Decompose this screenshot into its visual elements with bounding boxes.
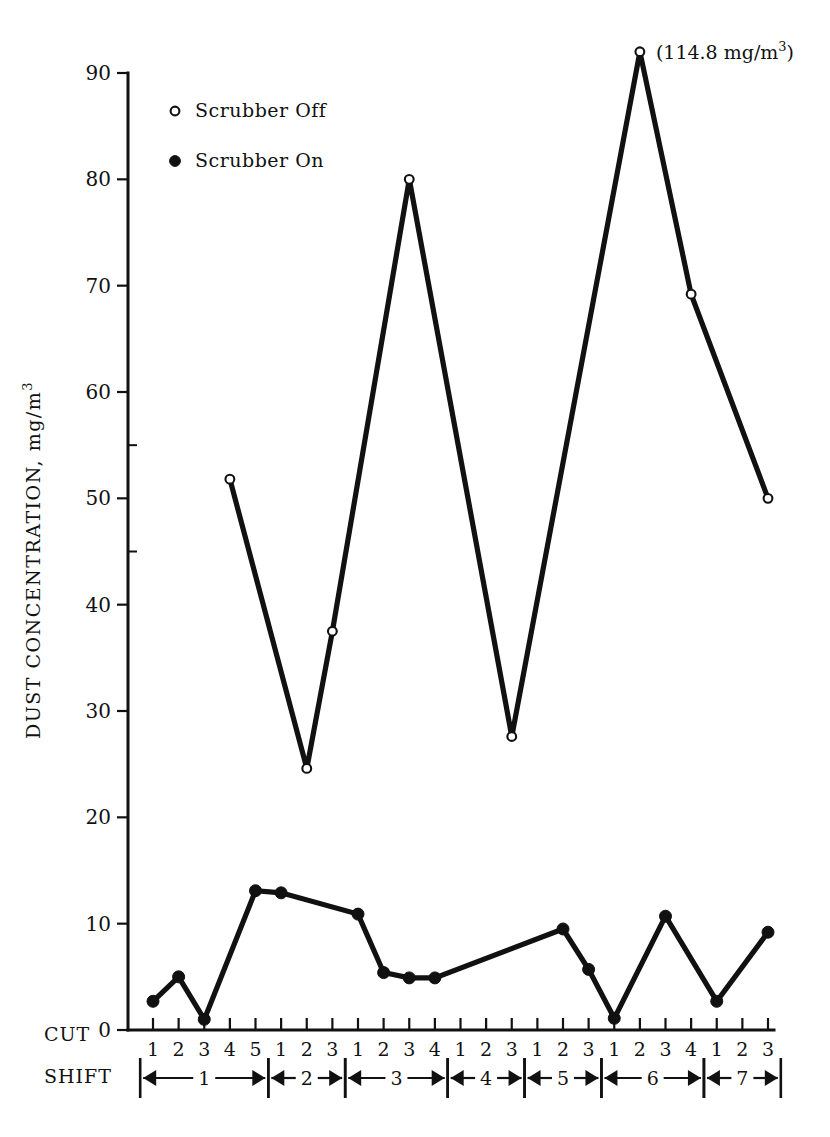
x-axis-cut-label: 1 <box>711 1038 723 1060</box>
x-axis: 1234512312341231231234123 <box>128 1018 774 1060</box>
y-axis-tick-label: 90 <box>86 61 111 85</box>
data-point-scrubber-on[interactable] <box>378 967 390 979</box>
svg-text:DUST CONCENTRATION, mg/m3: DUST CONCENTRATION, mg/m3 <box>20 381 44 739</box>
x-axis-cut-label: 2 <box>557 1038 569 1060</box>
annotation-text-after: ) <box>787 41 794 63</box>
y-axis-tick-label: 60 <box>86 380 111 404</box>
row-label-shift: SHIFT <box>44 1065 112 1087</box>
data-point-scrubber-on[interactable] <box>275 887 287 899</box>
x-axis-cut-label: 5 <box>249 1038 261 1060</box>
x-axis-cut-label: 2 <box>480 1038 492 1060</box>
data-point-scrubber-on[interactable] <box>711 995 723 1007</box>
shift-group-5: 5 <box>525 1058 602 1098</box>
data-point-scrubber-on[interactable] <box>608 1012 620 1024</box>
chart-canvas: DUST CONCENTRATION, mg/m3 01020304050607… <box>0 0 830 1137</box>
legend-label: Scrubber On <box>195 149 324 171</box>
shift-number-label: 7 <box>736 1067 748 1089</box>
data-point-scrubber-on[interactable] <box>660 910 672 922</box>
y-axis-tick-label: 0 <box>98 1018 111 1042</box>
x-axis-cut-label: 2 <box>378 1038 390 1060</box>
shift-number-label: 5 <box>557 1067 569 1089</box>
legend-item-scrubber-off[interactable]: Scrubber Off <box>171 99 328 121</box>
shift-group-3: 3 <box>345 1058 448 1098</box>
offscale-annotation: (114.8 mg/m3) <box>656 39 794 63</box>
x-axis-cut-label: 3 <box>583 1038 595 1060</box>
chart-legend: Scrubber OffScrubber On <box>170 99 328 171</box>
legend-item-scrubber-on[interactable]: Scrubber On <box>170 149 324 171</box>
shift-group-1: 1 <box>140 1058 268 1098</box>
x-axis-cut-label: 3 <box>506 1038 518 1060</box>
x-axis-cut-label: 2 <box>736 1038 748 1060</box>
x-axis-cut-label: 3 <box>326 1038 338 1060</box>
x-axis-cut-label: 3 <box>403 1038 415 1060</box>
row-label-cut: CUT <box>44 1023 90 1045</box>
data-point-scrubber-on[interactable] <box>198 1013 210 1025</box>
data-point-scrubber-off[interactable] <box>225 475 234 484</box>
x-axis-cut-label: 3 <box>198 1038 210 1060</box>
x-axis-cut-label: 3 <box>762 1038 774 1060</box>
x-axis-cut-label: 2 <box>634 1038 646 1060</box>
data-point-scrubber-on[interactable] <box>583 963 595 975</box>
y-axis-tick-label: 40 <box>86 593 111 617</box>
shift-number-label: 3 <box>390 1067 402 1089</box>
x-axis-cut-label: 1 <box>275 1038 287 1060</box>
y-axis-tick-label: 70 <box>86 274 111 298</box>
y-axis-title: DUST CONCENTRATION, mg/m3 <box>20 381 44 739</box>
data-point-scrubber-off[interactable] <box>687 290 696 299</box>
data-point-scrubber-off[interactable] <box>635 47 644 56</box>
y-axis-title-text: DUST CONCENTRATION, mg/m <box>22 391 44 739</box>
x-axis-cut-label: 1 <box>352 1038 364 1060</box>
y-axis-tick-label: 50 <box>86 486 111 510</box>
data-point-scrubber-on[interactable] <box>352 908 364 920</box>
data-point-scrubber-on[interactable] <box>173 971 185 983</box>
annotation-superscript: 3 <box>778 39 786 54</box>
y-axis-title-superscript: 3 <box>20 381 35 391</box>
series-scrubber-on <box>147 885 774 1026</box>
data-point-scrubber-off[interactable] <box>405 175 414 184</box>
data-point-scrubber-on[interactable] <box>557 923 569 935</box>
y-axis-tick-label: 80 <box>86 167 111 191</box>
x-axis-cut-label: 1 <box>147 1038 159 1060</box>
y-axis-tick-label: 20 <box>86 805 111 829</box>
shift-number-label: 1 <box>198 1067 210 1089</box>
shift-group-row: 1234567 <box>140 1058 781 1098</box>
data-point-scrubber-on[interactable] <box>403 972 415 984</box>
y-axis-tick-label: 30 <box>86 699 111 723</box>
x-axis-cut-label: 1 <box>531 1038 543 1060</box>
x-axis-cut-label: 4 <box>429 1038 441 1060</box>
shift-number-label: 6 <box>647 1067 659 1089</box>
y-axis: 0102030405060708090 <box>86 61 137 1042</box>
x-axis-cut-label: 1 <box>608 1038 620 1060</box>
data-point-scrubber-on[interactable] <box>429 972 441 984</box>
data-point-scrubber-off[interactable] <box>328 627 337 636</box>
annotation-text: (114.8 mg/m <box>656 41 778 63</box>
data-point-scrubber-off[interactable] <box>507 732 516 741</box>
legend-label: Scrubber Off <box>195 99 328 121</box>
dust-concentration-figure: DUST CONCENTRATION, mg/m3 01020304050607… <box>0 0 830 1137</box>
x-axis-cut-label: 2 <box>173 1038 185 1060</box>
shift-group-6: 6 <box>601 1058 704 1098</box>
shift-number-label: 4 <box>480 1067 492 1089</box>
data-point-scrubber-off[interactable] <box>764 494 773 503</box>
series-polyline <box>153 891 768 1020</box>
y-axis-tick-label: 10 <box>86 912 111 936</box>
legend-marker-filled-circle-icon <box>170 156 181 167</box>
x-axis-cut-label: 4 <box>685 1038 697 1060</box>
annotation-offscale-value: (114.8 mg/m3) <box>656 39 794 63</box>
shift-group-4: 4 <box>448 1058 525 1098</box>
shift-group-7: 7 <box>704 1058 781 1098</box>
x-axis-cut-label: 2 <box>301 1038 313 1060</box>
plot-root: 0102030405060708090123451231234123123123… <box>86 47 775 1060</box>
shift-group-2: 2 <box>268 1058 345 1098</box>
legend-marker-open-circle-icon <box>171 107 180 116</box>
data-point-scrubber-off[interactable] <box>302 764 311 773</box>
data-point-scrubber-on[interactable] <box>762 926 774 938</box>
x-axis-cut-label: 3 <box>659 1038 671 1060</box>
x-axis-cut-label: 4 <box>224 1038 236 1060</box>
data-point-scrubber-on[interactable] <box>250 885 262 897</box>
x-axis-cut-label: 1 <box>454 1038 466 1060</box>
shift-number-label: 2 <box>301 1067 313 1089</box>
data-point-scrubber-on[interactable] <box>147 995 159 1007</box>
